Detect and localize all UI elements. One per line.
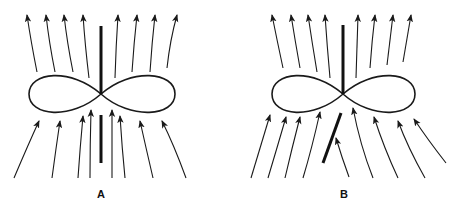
flow-arrow (308, 15, 317, 72)
bar-segment (323, 113, 341, 163)
flow-arrow (52, 121, 60, 178)
flow-arrow (167, 15, 177, 68)
flow-arrow (268, 117, 286, 178)
flow-arrow (291, 15, 300, 68)
flow-arrow (414, 119, 446, 163)
flow-arrow (90, 110, 91, 178)
flow-arrow (64, 15, 73, 72)
flow-arrow (14, 121, 39, 178)
flow-arrow (251, 115, 270, 178)
flow-arrow (336, 138, 349, 177)
flow-arrow (162, 121, 186, 178)
flow-arrow (387, 15, 393, 65)
flow-arrow (403, 15, 411, 62)
flow-arrow (27, 15, 37, 72)
flow-arrow (356, 15, 358, 78)
flow-arrow (285, 117, 300, 178)
flow-arrow (78, 116, 83, 178)
flow-arrow (115, 15, 118, 78)
diagram-stage: A B (0, 0, 458, 211)
flow-arrow (374, 117, 398, 178)
flow-arrow (325, 15, 330, 78)
flow-arrow (83, 15, 89, 78)
flow-arrow (353, 108, 373, 178)
panel-label-b: B (334, 188, 354, 200)
panel-b (251, 15, 446, 178)
flow-arrow (150, 15, 155, 72)
flow-arrow (46, 15, 55, 72)
flow-arrow (132, 15, 137, 72)
flow-arrow (272, 15, 283, 68)
flow-arrow (120, 116, 125, 178)
flow-arrow (303, 112, 320, 178)
panel-a (14, 15, 186, 178)
panel-label-a: A (91, 188, 111, 200)
flow-arrow (140, 121, 153, 178)
flow-diagram (0, 0, 458, 211)
flow-arrow (370, 15, 375, 68)
